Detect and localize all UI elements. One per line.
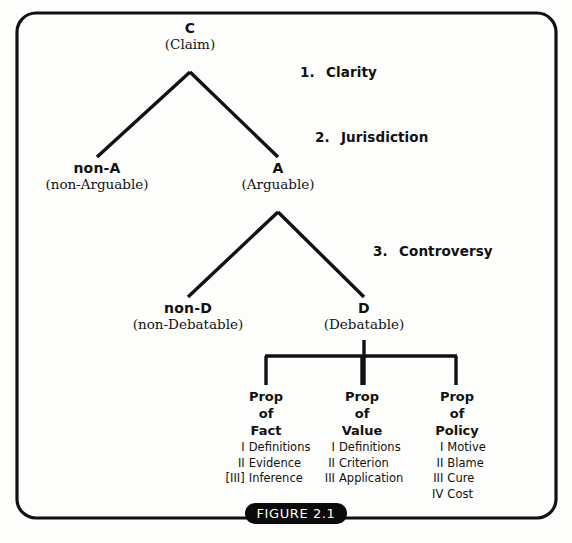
prop-value-item2-text: Application [339,471,403,487]
prop-fact-line3: Fact [249,423,283,440]
prop-value-item1-text: Criterion [339,456,403,472]
node-claim: C (Claim) [165,20,215,52]
prop-fact-list: I Definitions II Evidence [III] Inferenc… [226,440,311,487]
prop-value-line1: Prop [342,389,383,406]
criterion-clarity-label: Clarity [326,64,377,80]
prop-value-item1-numeral: II [325,456,339,472]
node-claim-code: C [165,20,215,37]
criterion-controversy-number: 3. [373,243,399,259]
prop-policy-line1: Prop [435,389,479,406]
prop-fact-line2: of [249,406,283,423]
prop-policy-item3-numeral: IV [432,487,447,503]
node-debatable-desc: (Debatable) [324,317,404,333]
node-non-arguable: non-A (non-Arguable) [45,160,148,192]
prop-policy-item0-text: Motive [447,440,486,456]
edge-A-to-D [278,212,364,297]
list-item: III Application [325,471,403,487]
prop-policy-line3: Policy [435,423,479,440]
prop-fact-item0-numeral: I [226,440,249,456]
node-debatable-code: D [324,300,404,317]
list-item: I Definitions [325,440,403,456]
prop-policy-item1-numeral: II [432,456,447,472]
prop-policy-item1-text: Blame [447,456,486,472]
node-non-arguable-code: non-A [45,160,148,177]
list-item: I Motive [432,440,486,456]
prop-fact-heading: Prop of Fact [249,389,283,440]
criterion-jurisdiction: 2.Jurisdiction [315,129,428,145]
list-item: III Cure [432,471,486,487]
criterion-jurisdiction-label: Jurisdiction [341,129,428,145]
criterion-clarity: 1.Clarity [300,64,377,80]
prop-fact-item0-text: Definitions [249,440,311,456]
prop-policy-heading: Prop of Policy [435,389,479,440]
edge-claim-to-nonA [97,72,190,157]
prop-policy-item2-text: Cure [447,471,486,487]
prop-value-line2: of [342,406,383,423]
prop-policy-line2: of [435,406,479,423]
prop-value-heading: Prop of Value [342,389,383,440]
prop-value-list: I Definitions II Criterion III Applicati… [325,440,403,487]
node-arguable-desc: (Arguable) [241,177,314,193]
prop-fact-line1: Prop [249,389,283,406]
node-non-debatable-desc: (non-Debatable) [133,317,244,333]
prop-value-line3: Value [342,423,383,440]
list-item: [III] Inference [226,471,311,487]
list-item: II Criterion [325,456,403,472]
figure-container: C (Claim) non-A (non-Arguable) A (Arguab… [0,0,572,543]
criterion-jurisdiction-number: 2. [315,129,341,145]
figure-caption-badge: FIGURE 2.1 [245,503,347,524]
prop-policy-list: I Motive II Blame III Cure IV Cost [432,440,486,503]
node-debatable: D (Debatable) [324,300,404,332]
prop-fact-item1-text: Evidence [249,456,311,472]
node-non-debatable-code: non-D [133,300,244,317]
list-item: II Evidence [226,456,311,472]
edge-claim-to-A [190,72,278,157]
list-item: I Definitions [226,440,311,456]
prop-fact-item2-text: Inference [249,471,311,487]
node-non-debatable: non-D (non-Debatable) [133,300,244,332]
criterion-clarity-number: 1. [300,64,326,80]
edge-A-to-nonD [188,212,278,297]
prop-policy-item3-text: Cost [447,487,486,503]
prop-value-item0-numeral: I [325,440,339,456]
node-arguable: A (Arguable) [241,160,314,192]
prop-value-item0-text: Definitions [339,440,403,456]
prop-policy-item2-numeral: III [432,471,447,487]
criterion-controversy: 3.Controversy [373,243,493,259]
prop-fact-item1-numeral: II [226,456,249,472]
list-item: II Blame [432,456,486,472]
prop-fact-item2-numeral: [III] [226,471,249,487]
criterion-controversy-label: Controversy [399,243,493,259]
node-arguable-code: A [241,160,314,177]
prop-policy-item0-numeral: I [432,440,447,456]
node-non-arguable-desc: (non-Arguable) [45,177,148,193]
node-claim-desc: (Claim) [165,37,215,53]
list-item: IV Cost [432,487,486,503]
prop-value-item2-numeral: III [325,471,339,487]
